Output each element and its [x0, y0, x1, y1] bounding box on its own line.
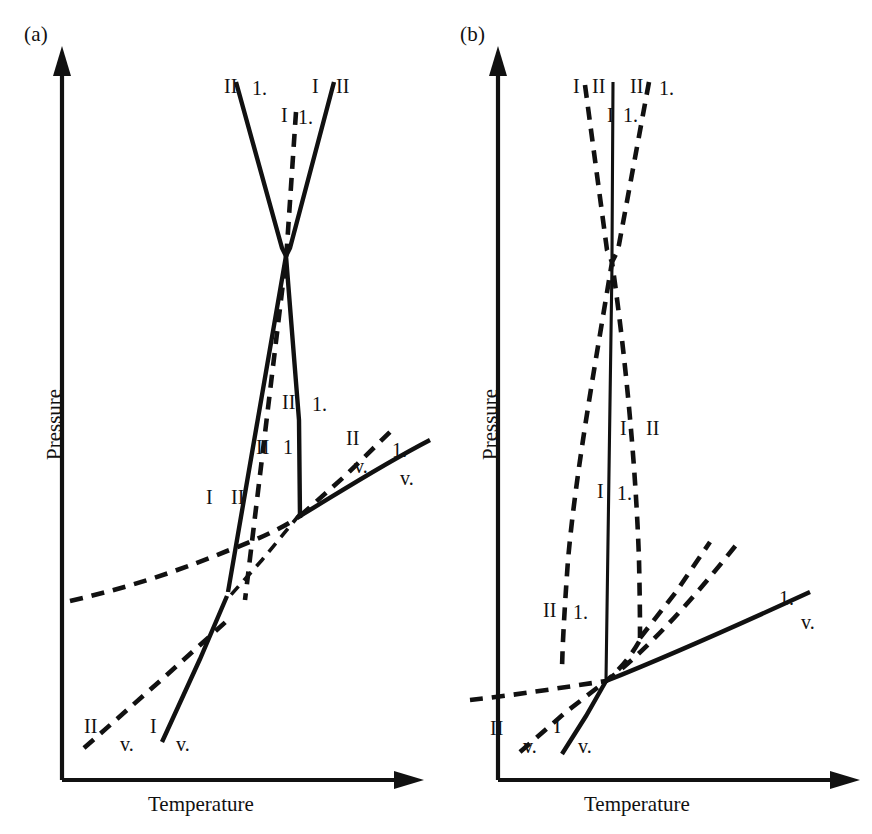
- label-ii-1-top: II: [224, 76, 237, 96]
- label-i-v-low-b: v.: [176, 734, 190, 754]
- label-ii-1-top-b: 1.: [659, 78, 674, 98]
- label-i-1-top: I: [607, 105, 614, 125]
- label-i-ii-mid: I: [206, 487, 213, 507]
- label-i-1-mid: I: [597, 481, 604, 501]
- label-i-1-top-b: 1.: [623, 105, 638, 125]
- label-ii-v-mid-b: v.: [354, 456, 368, 476]
- panel-a-curves: [70, 82, 430, 748]
- label-i-v-low-b: v.: [578, 736, 592, 756]
- label-i-ii-mid: I: [620, 418, 627, 438]
- label-ii-1-mid: II: [282, 392, 295, 412]
- label-i-ii-top-b: II: [592, 76, 605, 96]
- label-ii-1-mid-b: 1.: [312, 394, 327, 414]
- x-axis-arrowhead: [394, 771, 424, 789]
- curve-ii-1: [612, 82, 649, 638]
- label-i-ii-top: I: [312, 76, 319, 96]
- label-i-1-top-b: 1.: [298, 107, 313, 127]
- panel-b-curves: [470, 82, 810, 754]
- label-ii-1-top: II: [630, 76, 643, 96]
- label-i-1-top: I: [281, 105, 288, 125]
- curve-ii-v-steep: [520, 540, 740, 752]
- panel-a-x-axis-title: Temperature: [148, 792, 254, 817]
- label-ii-1-low-b: 1.: [573, 602, 588, 622]
- panel-a-axes: [53, 46, 424, 789]
- label-i-v-low: I: [554, 716, 561, 736]
- label-ii-1-top-b: 1.: [252, 78, 267, 98]
- curve-ii-v-upper: [70, 516, 300, 601]
- label-i-ii-mid-b: II: [646, 418, 659, 438]
- panel-b: (b): [436, 0, 872, 834]
- label-1-v-right: 1.: [392, 440, 407, 460]
- panel-a-y-axis-title: Pressure: [42, 389, 67, 460]
- label-ii-v-low: II: [84, 716, 97, 736]
- curve-i-ii: [228, 82, 334, 592]
- panel-b-y-axis-title: Pressure: [478, 389, 503, 460]
- curve-ii-v-branch: [300, 432, 390, 516]
- label-i-ii-top: I: [573, 76, 580, 96]
- label-1-v-right-b: v.: [400, 468, 414, 488]
- label-ii-v-low: II: [490, 718, 503, 738]
- y-axis-arrowhead: [53, 46, 71, 76]
- label-i-ii-mid-b: II: [231, 487, 244, 507]
- label-i-1-mid-b: 1.: [617, 483, 632, 503]
- label-ii-v-low-b: v.: [523, 736, 537, 756]
- panel-a: (a) Temperature Pres: [0, 0, 436, 834]
- y-axis-arrowhead: [489, 46, 507, 76]
- label-i-ii-top-b: II: [336, 76, 349, 96]
- label-ii-1-low: II: [543, 600, 556, 620]
- panel-b-x-axis-title: Temperature: [584, 792, 690, 817]
- label-ii-v-mid: II: [346, 428, 359, 448]
- label-i-1-mid-b: 1: [283, 437, 293, 457]
- label-ii-v-low-b: v.: [120, 734, 134, 754]
- phase-diagram-figure: (a) Temperature Pres: [0, 0, 872, 834]
- curve-ii-v-shallow: [470, 640, 640, 700]
- label-i-v-low: I: [150, 716, 157, 736]
- label-1-v-right: 1.: [779, 588, 794, 608]
- x-axis-arrowhead: [830, 771, 860, 789]
- curve-i-ii: [562, 85, 612, 673]
- label-i-1-mid: II: [256, 437, 269, 457]
- panel-b-axes: [489, 46, 860, 789]
- label-1-v-right-b: v.: [801, 612, 815, 632]
- curve-i-1: [606, 82, 613, 680]
